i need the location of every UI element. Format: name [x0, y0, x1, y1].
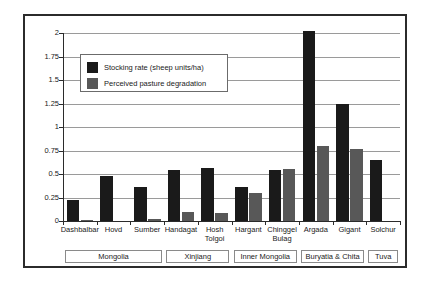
y-axis-labels: 21.751.51.2510.750.50.250 — [25, 16, 59, 266]
x-axis-category-label: Solchur — [360, 225, 406, 234]
bar — [317, 146, 330, 221]
bar — [249, 193, 262, 221]
y-axis-tick-mark — [59, 80, 63, 81]
y-axis-tick-label: 1.5 — [49, 76, 59, 84]
y-axis-tick-label: 1.25 — [44, 100, 59, 108]
gridline — [63, 104, 400, 105]
bar — [283, 169, 296, 221]
bar — [370, 160, 383, 221]
bar — [201, 168, 214, 221]
category-label-line: Bulag — [259, 234, 305, 243]
bar — [303, 31, 316, 221]
bar — [336, 104, 349, 222]
group-label: Mongolia — [65, 252, 162, 261]
bar — [67, 200, 80, 221]
group-label: Xinjiang — [166, 252, 229, 261]
gridline — [63, 33, 400, 34]
category-label-line: Solchur — [360, 225, 406, 234]
y-axis-tick-label: 0.75 — [44, 147, 59, 155]
legend-swatch — [87, 62, 98, 73]
category-label-line: Tolgoi — [192, 234, 238, 243]
y-axis-tick-label: 1.75 — [44, 53, 59, 61]
group-label: Inner Mongolia — [234, 252, 297, 261]
bar — [235, 187, 248, 221]
y-axis-line — [63, 33, 64, 222]
bar — [215, 213, 228, 221]
plot-area: 21.751.51.2510.750.50.250 DashbalbarHovd… — [25, 16, 405, 266]
bar — [182, 212, 195, 221]
y-axis-tick-mark — [59, 33, 63, 34]
legend-label: Perceived pasture degradation — [104, 79, 206, 88]
group-label: Buryatia & Chita — [301, 252, 364, 261]
bar — [100, 176, 113, 221]
y-axis-tick-mark — [59, 198, 63, 199]
y-axis-tick-label: 0.5 — [49, 170, 59, 178]
bar — [350, 149, 363, 221]
bar — [269, 170, 282, 221]
bar — [134, 187, 147, 221]
y-axis-tick-mark — [59, 57, 63, 58]
chart-legend: Stocking rate (sheep units/ha)Perceived … — [80, 54, 228, 92]
y-axis-tick-label: 0.25 — [44, 194, 59, 202]
legend-label: Stocking rate (sheep units/ha) — [104, 63, 204, 72]
y-axis-tick-mark — [59, 174, 63, 175]
chart-figure: 21.751.51.2510.750.50.250 DashbalbarHovd… — [23, 14, 407, 268]
legend-swatch — [87, 78, 98, 89]
y-axis-tick-mark — [59, 127, 63, 128]
y-axis-tick-mark — [59, 104, 63, 105]
group-label: Tuva — [368, 252, 398, 261]
bar — [168, 170, 181, 221]
gridline — [63, 127, 400, 128]
y-axis-tick-mark — [59, 221, 63, 222]
y-axis-tick-mark — [59, 151, 63, 152]
